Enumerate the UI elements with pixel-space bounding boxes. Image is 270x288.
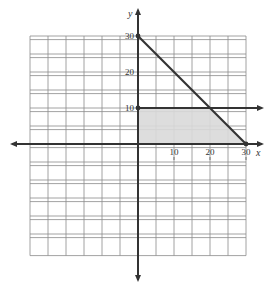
x-axis-label: x [255, 147, 261, 158]
x-axis-left-arrow-icon [10, 141, 17, 147]
x-tick-label: 10 [170, 147, 180, 157]
line-y-10-arrow-icon [257, 105, 264, 111]
vertex-point [136, 106, 141, 111]
y-tick-label: 20 [125, 67, 135, 77]
y-axis-up-arrow-icon [135, 8, 141, 15]
y-axis-down-arrow-icon [135, 275, 141, 282]
y-tick-label: 10 [125, 103, 135, 113]
y-axis-label: y [127, 8, 133, 19]
vertex-point [244, 142, 249, 147]
x-tick-label: 30 [242, 147, 252, 157]
coordinate-plane: 102030102030 x y [0, 0, 270, 288]
vertex-point [136, 34, 141, 39]
x-tick-label: 20 [206, 147, 216, 157]
y-tick-label: 30 [125, 31, 135, 41]
